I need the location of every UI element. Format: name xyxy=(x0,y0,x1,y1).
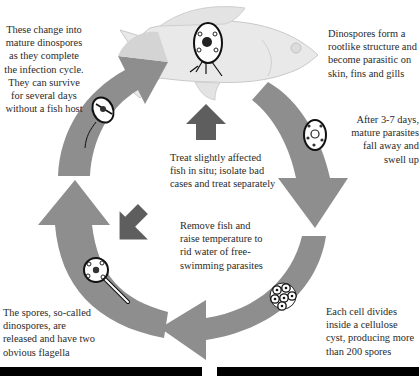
swollen-parasite-icon xyxy=(304,120,326,150)
bottom-bar-right xyxy=(217,367,419,376)
bottom-bar-left xyxy=(0,367,202,376)
treatment-arrow-up xyxy=(186,104,226,140)
fish-eye-icon xyxy=(291,43,301,53)
fish-pelvic-fin xyxy=(195,82,220,100)
caption-treat-in-situ: Treat slightly affected fish in situ; is… xyxy=(170,151,278,191)
caption-raise-temperature: Remove fish and raise temperature to rid… xyxy=(180,219,272,272)
caption-infection: Dinospores form a rootlike structure and… xyxy=(328,27,420,80)
caption-cyst: Each cell divides inside a cellulose cys… xyxy=(326,305,419,358)
treatment-arrow-down-left xyxy=(105,198,160,253)
caption-release: The spores, so-called dinospores, are re… xyxy=(3,306,99,359)
caption-mature: These change into mature dinospores as t… xyxy=(3,23,85,115)
caption-fall-away: After 3-7 days, mature parasites fall aw… xyxy=(345,113,419,166)
